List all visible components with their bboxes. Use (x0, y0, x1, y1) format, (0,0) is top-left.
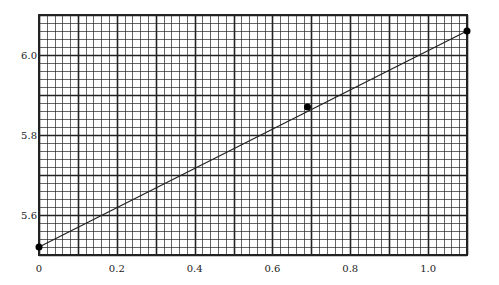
x-tick-label: 0.6 (265, 263, 281, 274)
y-axis-tick-labels: 5.65.86.0 (21, 50, 37, 221)
x-axis-tick-labels: 00.20.40.60.81.0 (36, 263, 436, 274)
y-tick-label: 6.0 (21, 50, 37, 61)
data-point (36, 244, 43, 251)
chart: 00.20.40.60.81.0 5.65.86.0 (0, 0, 499, 285)
x-tick-label: 1.0 (420, 263, 436, 274)
x-tick-label: 0.2 (109, 263, 125, 274)
x-tick-label: 0.4 (187, 263, 203, 274)
data-point (464, 28, 471, 35)
x-tick-label: 0 (36, 263, 42, 274)
y-tick-label: 5.8 (21, 130, 37, 141)
x-tick-label: 0.8 (342, 263, 358, 274)
grid (39, 15, 468, 256)
y-tick-label: 5.6 (21, 210, 37, 221)
data-point (304, 104, 311, 111)
